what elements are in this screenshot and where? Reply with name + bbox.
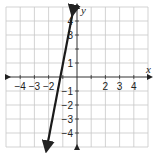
x-tick-p2: 2 bbox=[103, 81, 109, 92]
y-axis-label: y bbox=[80, 4, 86, 16]
coordinate-plane: −4 −3 −2 2 3 4 4 3 1 −1 −2 −3 −4 x y bbox=[0, 0, 158, 154]
y-tick-p1: 1 bbox=[67, 58, 73, 69]
y-tick-m4: −4 bbox=[62, 128, 74, 139]
x-tick-m4: −4 bbox=[14, 81, 26, 92]
y-tick-m3: −3 bbox=[62, 114, 74, 125]
x-tick-m2: −2 bbox=[43, 81, 55, 92]
y-tick-m1: −1 bbox=[62, 86, 74, 97]
x-tick-labels: −4 −3 −2 2 3 4 bbox=[14, 81, 137, 92]
axes bbox=[8, 6, 150, 147]
x-tick-m3: −3 bbox=[29, 81, 41, 92]
x-tick-p4: 4 bbox=[131, 81, 137, 92]
y-tick-m2: −2 bbox=[62, 100, 74, 111]
x-axis-label: x bbox=[145, 63, 151, 75]
x-tick-p3: 3 bbox=[117, 81, 123, 92]
